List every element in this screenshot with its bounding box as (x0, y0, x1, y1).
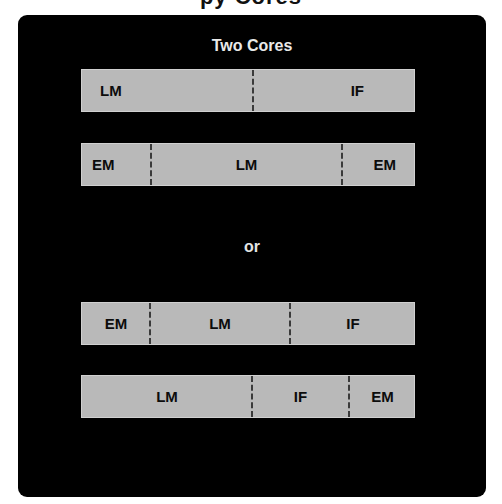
segment-lm: LM (82, 70, 253, 111)
segment-label: LM (209, 315, 231, 332)
segment-label: LM (100, 82, 122, 99)
core-layout-bar-1: LM IF (81, 69, 415, 112)
segment-label: IF (294, 388, 307, 405)
segment-lm: LM (82, 376, 252, 417)
segment-if: IF (290, 303, 416, 344)
segment-em: EM (82, 144, 151, 185)
segment-em: EM (342, 144, 416, 185)
segment-label: IF (351, 82, 364, 99)
segment-em: EM (349, 376, 416, 417)
two-cores-panel: Two Cores LM IF EM LM EM or (18, 15, 486, 497)
panel-title: Two Cores (18, 37, 486, 55)
segment-if: IF (253, 70, 416, 111)
clipped-figure-title: py Cores (0, 0, 502, 10)
alternative-separator: or (18, 238, 486, 256)
core-layout-bar-4: LM IF EM (81, 375, 415, 418)
segment-label: IF (346, 315, 359, 332)
segment-label: LM (236, 156, 258, 173)
segment-label: LM (156, 388, 178, 405)
segment-label: EM (92, 156, 115, 173)
core-layout-bar-3: EM LM IF (81, 302, 415, 345)
segment-lm: LM (151, 144, 342, 185)
segment-label: EM (374, 156, 397, 173)
segment-label: EM (105, 315, 128, 332)
core-layout-bar-2: EM LM EM (81, 143, 415, 186)
segment-lm: LM (150, 303, 290, 344)
segment-em: EM (82, 303, 150, 344)
segment-if: IF (252, 376, 349, 417)
segment-label: EM (371, 388, 394, 405)
diagram-page: py Cores Two Cores LM IF EM LM EM (0, 0, 502, 504)
